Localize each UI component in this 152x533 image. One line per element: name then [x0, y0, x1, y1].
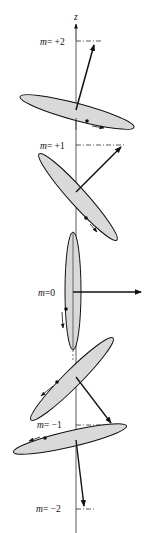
m-plus-2-label: m= +2 [40, 37, 65, 47]
angular-momentum-vector [76, 377, 111, 423]
orbit-dot [84, 216, 88, 220]
m-minus-2-label: m= −2 [36, 504, 61, 514]
angular-momentum-diagram: z m= +2 m= +1 m=0 m= −1 [0, 0, 152, 533]
angular-momentum-vector [76, 45, 94, 110]
orbit-dot [55, 380, 59, 384]
orbit-dot [43, 436, 47, 440]
rotation-arrow [62, 312, 63, 328]
precession-disk [33, 148, 123, 246]
precession-disk [12, 418, 129, 460]
angular-momentum-vector [76, 440, 84, 506]
state-m-plus-1: m= +1 [33, 141, 126, 246]
orbit-dot [64, 307, 68, 311]
precession-disk [18, 89, 136, 136]
angular-momentum-vector [76, 147, 121, 192]
m-zero-label: m=0 [38, 288, 55, 298]
state-m-plus-2: m= +2 [18, 37, 136, 135]
state-m-zero: m=0 [38, 232, 141, 360]
m-plus-1-label: m= +1 [40, 141, 65, 151]
state-m-minus-2: m= −2 [12, 418, 129, 514]
m-minus-1-label: m= −1 [37, 420, 62, 430]
orbit-dot [85, 119, 89, 123]
z-axis-label: z [73, 12, 78, 22]
